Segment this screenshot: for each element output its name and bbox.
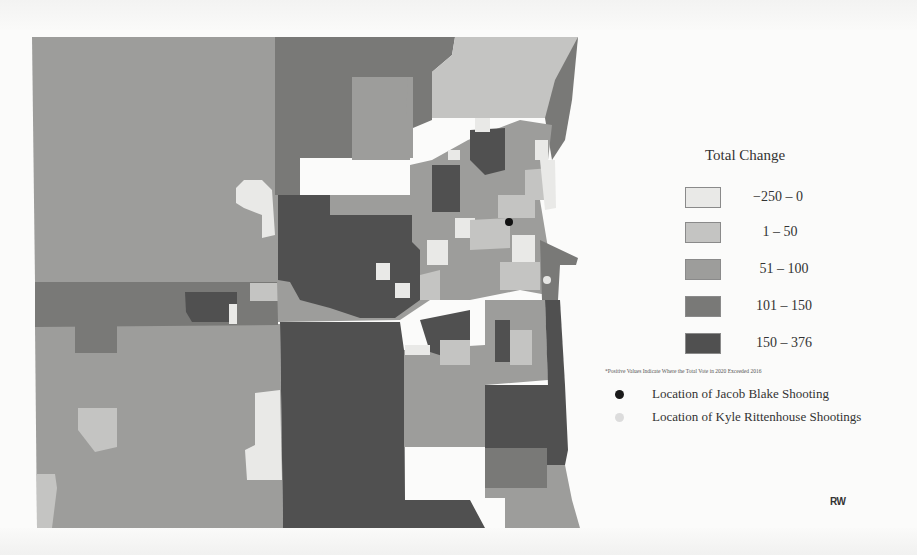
region-west-lower [35,324,283,528]
legend-swatch [685,333,721,354]
region-north-dark-lower [275,77,352,195]
region-central-light-4 [500,262,540,290]
region-south-east-mid [485,448,547,488]
region-central-white-3 [427,240,448,265]
legend-label: 101 – 150 [719,298,849,314]
legend-footnote: *Positive Values Indicate Where the Tota… [605,368,761,374]
region-southeast-light-1 [510,330,532,365]
region-north-mid-3 [352,118,410,160]
legend-item: 150 – 376 [685,333,885,355]
legend-item: −250 – 0 [685,187,885,209]
legend-title: Total Change [705,147,785,164]
region-central-white-8 [535,140,548,160]
legend-label: 1 – 50 [715,224,845,240]
region-central-white-5 [448,150,460,160]
region-central-white-7 [512,235,535,262]
region-southeast-light-2 [440,340,470,365]
region-southeast-strip [545,300,565,385]
jacob-blake-marker [505,218,513,226]
region-central-white-1 [376,263,390,280]
region-south-cluster-white [405,345,430,355]
region-west-band [35,282,278,327]
author-signature: RW [830,496,845,507]
legend-marker-label: Location of Kyle Rittenhouse Shootings [652,409,861,425]
legend-swatch [685,296,721,317]
region-central-white-4 [475,118,490,132]
legend-swatch [685,259,721,280]
region-central-light-1 [470,218,510,250]
region-central-white-2 [395,283,410,298]
region-south-mid-lower [404,415,485,447]
region-west-upper [32,37,278,282]
region-west-notch [75,325,117,353]
legend-marker-label: Location of Jacob Blake Shooting [652,386,829,402]
region-central-light-3 [420,270,440,300]
legend-label: 51 – 100 [719,261,849,277]
region-west-band-light [250,283,278,301]
region-central-dark-2 [432,165,460,212]
legend-item: 51 – 100 [685,259,885,281]
legend-label: 150 – 376 [719,335,849,351]
rittenhouse-marker [543,276,551,284]
region-west-band-white [229,304,237,324]
rittenhouse-dot-icon [615,413,624,422]
legend-item: 1 – 50 [685,222,885,244]
legend-item: 101 – 150 [685,296,885,318]
region-east-dark-pocket [540,240,578,300]
legend-label: −250 – 0 [713,189,843,205]
blake-dot-icon [615,390,624,399]
region-southeast-dark-1 [495,320,510,362]
